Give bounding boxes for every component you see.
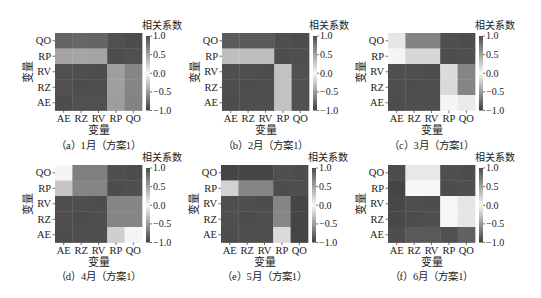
colorbar-tick-label: −0.5 — [319, 218, 337, 229]
colorbar-tick-label: 0.5 — [320, 49, 333, 60]
heatmap-cell — [423, 80, 441, 96]
heatmap-cell — [107, 212, 125, 228]
heatmap-cell — [274, 95, 292, 111]
heatmap-cell — [238, 165, 256, 181]
colorbar: 1.00.50.0−0.5−1.0相关系数 — [475, 19, 515, 116]
heatmap-cell — [72, 165, 90, 181]
y-tick-label: RZ — [38, 214, 51, 225]
heatmap-cell — [239, 33, 257, 49]
heatmap-cell — [55, 64, 73, 80]
heatmap-cell — [72, 196, 90, 212]
heatmap-cell — [125, 227, 143, 243]
colorbar-tick-label: 0.0 — [319, 200, 332, 211]
heatmap-cell — [274, 64, 292, 80]
x-tick-label: RZ — [74, 245, 87, 256]
heatmap-cell — [55, 80, 73, 96]
heatmap-cell — [405, 80, 423, 96]
heatmap-cell — [125, 181, 143, 197]
heatmap-cell — [90, 95, 108, 111]
y-tick-label: RZ — [204, 214, 217, 225]
heatmap-cell — [405, 165, 423, 181]
colorbar-tick-label: 0.0 — [486, 200, 499, 211]
x-tick-label: RZ — [407, 245, 420, 256]
colorbar-title: 相关系数 — [142, 151, 182, 163]
y-axis-title: 变量 — [354, 61, 367, 83]
heatmap-cell — [107, 80, 125, 96]
colorbar-gradient — [146, 168, 150, 243]
heatmap-cell — [291, 227, 309, 243]
heatmap-cell — [55, 227, 73, 243]
x-axis-title: 变量 — [255, 123, 277, 136]
heatmap-cell — [405, 227, 423, 243]
heatmap-grid — [55, 33, 142, 111]
y-tick-label: AE — [370, 97, 384, 108]
heatmap-cell — [291, 212, 309, 228]
colorbar-tick-label: 0.5 — [153, 181, 166, 192]
heatmap-cell — [440, 80, 458, 96]
colorbar-tick-label: 0.5 — [486, 49, 499, 60]
panel-caption: （f）6月（方案1） — [390, 270, 474, 282]
heatmap-cell — [405, 64, 423, 80]
heatmap-cell — [458, 33, 476, 49]
y-tick-label: AE — [203, 229, 217, 240]
colorbar-tick-label: 0.0 — [486, 68, 499, 79]
panel-caption: （e）5月（方案1） — [222, 270, 307, 282]
colorbar-tick-label: −1.0 — [153, 237, 171, 248]
y-tick-label: QO — [369, 35, 385, 46]
heatmap-cell — [458, 95, 476, 111]
heatmap-grid — [55, 165, 142, 243]
y-axis-title: 变量 — [187, 193, 200, 215]
x-tick-label: RV — [92, 245, 106, 256]
heatmap-cell — [90, 227, 108, 243]
heatmap-cell — [388, 33, 406, 49]
y-tick-label: AE — [37, 97, 51, 108]
y-tick-label: RV — [37, 66, 51, 77]
heatmap-cell — [423, 49, 441, 65]
x-tick-label: RP — [109, 245, 122, 256]
heatmap-cell — [405, 181, 423, 197]
heatmap-cell — [239, 49, 257, 65]
colorbar-tick-label: 0.0 — [153, 68, 166, 79]
heatmap-cell — [423, 165, 441, 181]
heatmap-cell — [221, 212, 239, 228]
heatmap-cell — [274, 49, 292, 65]
y-tick-label: RP — [205, 51, 218, 62]
heatmap-cell — [55, 95, 73, 111]
x-tick-label: RZ — [74, 113, 87, 124]
heatmap-panel-4: QORPRVRZAEAERZRVRPQO变量变量（d）4月（方案1）1.00.5… — [21, 151, 182, 282]
heatmap-cell — [221, 196, 239, 212]
heatmap-cell — [388, 165, 406, 181]
heatmap-cell — [274, 33, 292, 49]
heatmap-cell — [107, 33, 125, 49]
heatmap-cell — [107, 49, 125, 65]
heatmap-cell — [440, 95, 458, 111]
y-tick-label: RZ — [205, 82, 218, 93]
heatmap-cell — [221, 227, 239, 243]
y-tick-label: RZ — [371, 214, 384, 225]
y-tick-label: RP — [371, 51, 384, 62]
heatmap-cell — [273, 181, 291, 197]
heatmap-panel-1: QORPRVRZAEAERZRVRPQO变量变量（a）1月（方案1）1.00.5… — [21, 19, 182, 151]
colorbar-tick-label: 1.0 — [486, 162, 499, 173]
colorbar-gradient — [146, 36, 150, 111]
colorbar-gradient — [479, 36, 483, 111]
heatmap-grid — [222, 33, 309, 111]
x-tick-label: RP — [275, 245, 288, 256]
x-tick-label: RV — [425, 113, 439, 124]
y-axis-title: 变量 — [21, 61, 34, 83]
heatmap-cell — [458, 64, 476, 80]
y-tick-label: AE — [370, 229, 384, 240]
y-tick-label: AE — [37, 229, 51, 240]
heatmap-cell — [388, 227, 406, 243]
x-tick-label: AE — [390, 245, 404, 256]
heatmap-cell — [388, 181, 406, 197]
heatmap-cell — [273, 227, 291, 243]
heatmap-cell — [55, 181, 73, 197]
heatmap-cell — [256, 196, 274, 212]
heatmap-cell — [72, 49, 90, 65]
heatmap-cell — [107, 95, 125, 111]
panel-caption: （b）2月（方案1） — [223, 139, 309, 151]
heatmap-cell — [72, 33, 90, 49]
x-tick-label: RV — [425, 245, 439, 256]
x-tick-label: RZ — [407, 113, 420, 124]
